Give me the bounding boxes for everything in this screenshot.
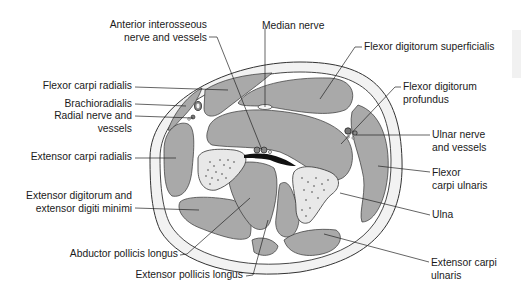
label-line: Flexor bbox=[432, 167, 512, 180]
label-ulna: Ulna bbox=[432, 209, 472, 222]
label-line: Flexor carpi radialis bbox=[30, 80, 132, 93]
label-line: Median nerve bbox=[262, 20, 342, 33]
label-radial-nerve: Radial nerve andvessels bbox=[30, 110, 132, 135]
label-line: Extensor carpi radialis bbox=[20, 151, 132, 164]
label-line: Extensor digitorum and bbox=[18, 190, 132, 203]
label-line: Anterior interosseous bbox=[105, 19, 207, 32]
label-line: Extensor pollicis longus bbox=[125, 269, 243, 282]
label-extensor-digitorum: Extensor digitorum andextensor digiti mi… bbox=[18, 190, 132, 215]
label-line: vessels bbox=[30, 123, 132, 136]
label-abductor-pollicis-longus: Abductor pollicis longus bbox=[60, 248, 178, 261]
label-line: carpi ulnaris bbox=[432, 180, 512, 193]
label-line: Ulna bbox=[432, 209, 472, 222]
page-edge-strip bbox=[512, 30, 521, 78]
label-flexor-carpi-radialis: Flexor carpi radialis bbox=[30, 80, 132, 93]
label-anterior-interosseous: Anterior interosseousnerve and vessels bbox=[105, 19, 207, 44]
forearm-cross-section-diagram: Anterior interosseousnerve and vesselsMe… bbox=[0, 0, 521, 299]
label-line: profundus bbox=[403, 94, 503, 107]
label-line: Ulnar nerve bbox=[432, 129, 512, 142]
label-line: ulnaris bbox=[431, 270, 521, 283]
label-line: Brachioradialis bbox=[40, 98, 132, 111]
label-line: Flexor digitorum superficialis bbox=[364, 41, 514, 54]
label-extensor-pollicis-longus: Extensor pollicis longus bbox=[125, 269, 243, 282]
label-line: and vessels bbox=[432, 142, 512, 155]
label-extensor-carpi-radialis: Extensor carpi radialis bbox=[20, 151, 132, 164]
label-line: extensor digiti minimi bbox=[18, 203, 132, 216]
label-extensor-carpi-ulnaris: Extensor carpiulnaris bbox=[431, 257, 521, 282]
label-line: Abductor pollicis longus bbox=[60, 248, 178, 261]
label-flexor-digitorum-profundus: Flexor digitorumprofundus bbox=[403, 81, 503, 106]
label-flexor-digitorum-superficialis: Flexor digitorum superficialis bbox=[364, 41, 514, 54]
label-line: Radial nerve and bbox=[30, 110, 132, 123]
label-line: Extensor carpi bbox=[431, 257, 521, 270]
label-ulnar-nerve: Ulnar nerveand vessels bbox=[432, 129, 512, 154]
label-line: nerve and vessels bbox=[105, 32, 207, 45]
label-median-nerve: Median nerve bbox=[262, 20, 342, 33]
label-flexor-carpi-ulnaris: Flexorcarpi ulnaris bbox=[432, 167, 512, 192]
label-brachioradialis: Brachioradialis bbox=[40, 98, 132, 111]
label-line: Flexor digitorum bbox=[403, 81, 503, 94]
